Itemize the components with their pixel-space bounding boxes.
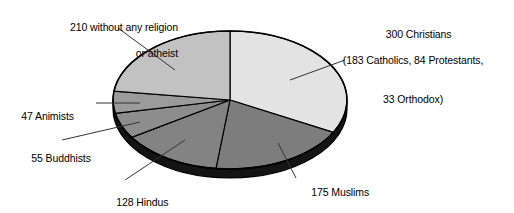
slice-label-christians: 300 Christians (183 Catholics, 84 Protes…	[318, 15, 508, 132]
slice-label-hindus-line1: 128 Hindus	[116, 196, 168, 208]
slice-label-hindus: 128 Hindus	[105, 183, 197, 213]
slice-label-no-religion-line1: 210 without any religion	[70, 21, 178, 33]
slice-label-christians-line3: 33 Orthodox)	[318, 93, 508, 106]
slice-label-muslims-line1: 175 Muslims	[311, 186, 369, 198]
slice-label-animists: 47 Animists	[10, 97, 104, 136]
slice-label-no-religion: 210 without any religion or atheist	[18, 8, 178, 86]
slice-label-christians-line1: 300 Christians	[386, 28, 452, 40]
slice-label-no-religion-line2: or atheist	[18, 47, 178, 60]
slice-label-buddhists-line1: 55 Buddhists	[31, 152, 91, 164]
slice-label-buddhists: 55 Buddhists	[20, 139, 120, 178]
slice-label-christians-line2: (183 Catholics, 84 Protestants,	[318, 54, 508, 67]
pie-chart-figure: 210 without any religion or atheist 300 …	[0, 0, 514, 213]
slice-label-muslims: 175 Muslims	[300, 173, 392, 212]
slice-label-animists-line1: 47 Animists	[21, 110, 74, 122]
